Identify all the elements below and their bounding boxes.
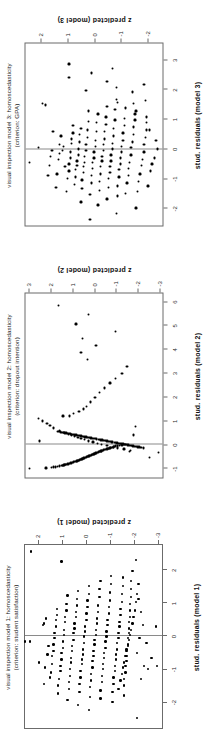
- data-point: [47, 645, 49, 647]
- data-point: [129, 153, 131, 155]
- data-point: [130, 588, 132, 590]
- plot-frame-model-3: [24, 42, 163, 226]
- data-point: [115, 98, 117, 100]
- x-tick-label: 0: [171, 443, 177, 446]
- data-point: [91, 660, 93, 662]
- data-point: [94, 145, 96, 147]
- data-point: [94, 139, 96, 141]
- data-point: [88, 585, 90, 587]
- data-point: [79, 127, 81, 129]
- data-point: [135, 559, 137, 561]
- data-point: [57, 692, 59, 694]
- data-point: [149, 170, 151, 172]
- data-point: [74, 168, 76, 170]
- data-point: [60, 658, 62, 660]
- x-tick: [163, 178, 167, 179]
- plot-panel-model-2: visual inspection model 2: homoscedastic…: [0, 250, 203, 502]
- data-point: [77, 704, 79, 706]
- x-tick: [163, 59, 167, 60]
- x-tick: [163, 324, 167, 325]
- data-point: [131, 622, 133, 624]
- data-point: [85, 619, 87, 621]
- data-point: [108, 381, 110, 383]
- data-point: [117, 637, 119, 639]
- x-tick-label: 3: [171, 371, 177, 374]
- data-point: [115, 658, 117, 660]
- data-point: [105, 444, 107, 446]
- data-point: [154, 139, 156, 141]
- data-point: [121, 673, 123, 675]
- data-point: [59, 665, 61, 667]
- data-point: [79, 200, 81, 202]
- data-point: [105, 197, 107, 199]
- data-point: [136, 593, 138, 595]
- plot-title-model-3: visual inspection model 3: homoscedastic…: [4, 0, 20, 250]
- data-point: [71, 645, 73, 647]
- data-point: [90, 174, 92, 176]
- data-point: [73, 627, 75, 629]
- data-point: [124, 655, 126, 657]
- data-point: [92, 650, 94, 652]
- data-point: [103, 137, 105, 139]
- data-point: [123, 694, 125, 696]
- plot-title-model-1: visual inspection model 1: homoscedastic…: [4, 502, 20, 753]
- data-point: [77, 410, 79, 412]
- data-point: [115, 653, 117, 655]
- data-point: [57, 304, 59, 306]
- data-point: [57, 684, 59, 686]
- data-point: [111, 691, 113, 693]
- data-point: [99, 172, 101, 174]
- data-point: [122, 448, 124, 450]
- data-point: [82, 171, 84, 173]
- data-point: [148, 128, 150, 130]
- data-point: [114, 377, 116, 379]
- data-point: [72, 632, 74, 634]
- x-tick-label: -2: [171, 700, 177, 705]
- data-point: [28, 161, 30, 163]
- x-tick-label: 3: [171, 58, 177, 61]
- data-point: [108, 612, 110, 614]
- data-point: [87, 109, 89, 111]
- x-tick-label: 1: [171, 118, 177, 121]
- data-point: [146, 184, 148, 186]
- data-point: [115, 212, 117, 214]
- data-point: [63, 165, 65, 167]
- plot-title-line1: visual inspection model 3: homoscedastic…: [4, 63, 11, 187]
- data-point: [123, 684, 125, 686]
- data-point: [92, 655, 94, 657]
- data-point: [137, 180, 139, 182]
- data-point: [80, 178, 82, 180]
- data-point: [103, 657, 105, 659]
- data-point: [37, 417, 39, 419]
- data-point: [67, 162, 69, 164]
- data-point: [66, 699, 68, 701]
- data-point: [69, 156, 71, 158]
- data-point: [93, 396, 95, 398]
- data-point: [70, 137, 72, 139]
- data-point: [116, 648, 118, 650]
- plot-frame-model-2: [24, 292, 163, 478]
- y-axis-label-wrap-model-3: z predicted (model 3): [24, 0, 163, 40]
- data-point: [138, 172, 140, 174]
- data-point: [116, 642, 118, 644]
- data-point: [87, 313, 89, 315]
- data-point: [71, 124, 73, 126]
- data-point: [131, 570, 133, 572]
- x-tick: [163, 602, 167, 603]
- plot-title-line1: visual inspection model 2: homoscedastic…: [4, 314, 11, 438]
- data-point: [46, 653, 48, 655]
- data-point: [129, 609, 131, 611]
- data-point: [72, 412, 74, 414]
- data-point: [50, 671, 52, 673]
- data-point: [88, 709, 90, 711]
- data-point: [114, 665, 116, 667]
- data-point: [96, 617, 98, 619]
- data-point: [116, 101, 118, 103]
- data-point: [56, 430, 58, 432]
- data-point: [109, 159, 111, 161]
- data-point: [98, 180, 100, 182]
- data-point: [145, 121, 147, 123]
- data-point: [128, 161, 130, 163]
- data-point: [121, 139, 123, 141]
- data-point: [132, 433, 134, 435]
